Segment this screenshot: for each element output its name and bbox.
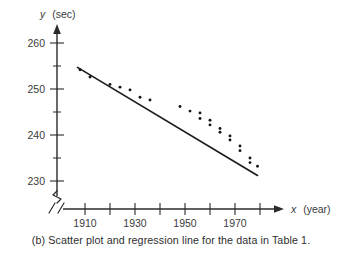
x-axis-break-icon (49, 203, 64, 213)
x-tick-label-1930: 1930 (123, 217, 147, 229)
x-tick-label-1970: 1970 (223, 217, 247, 229)
scatter-point (209, 119, 212, 122)
scatter-point (249, 161, 252, 164)
scatter-point (199, 117, 202, 120)
x-axis-group: 1910 1930 1950 1970 x (year) (49, 203, 331, 229)
scatter-point (129, 88, 132, 91)
y-axis-title: y (sec) (39, 8, 76, 20)
y-tick-label-230: 230 (27, 175, 45, 187)
x-axis-title-variable: x (290, 203, 297, 215)
scatter-point (179, 105, 182, 108)
scatter-point (79, 68, 82, 71)
y-axis-group: 260 250 240 230 y (sec) (27, 8, 75, 203)
scatter-point (219, 127, 222, 130)
scatter-point (239, 149, 242, 152)
scatter-point (229, 139, 232, 142)
scatter-point (239, 145, 242, 148)
y-tick-label-250: 250 (27, 83, 45, 95)
scatter-points-group (79, 68, 259, 167)
scatter-point (189, 110, 192, 113)
scatter-point (249, 157, 252, 160)
regression-line (78, 67, 258, 175)
scatter-point (89, 76, 92, 79)
scatter-point (119, 86, 122, 89)
x-axis-title-unit: (year) (303, 203, 330, 215)
figure-caption: (b) Scatter plot and regression line for… (0, 234, 342, 246)
y-axis-arrowhead (53, 24, 61, 34)
y-tick-label-260: 260 (27, 37, 45, 49)
scatter-point (139, 96, 142, 99)
figure-container: 260 250 240 230 y (sec) (0, 0, 342, 254)
x-tick-label-1950: 1950 (173, 217, 197, 229)
y-axis-title-variable: y (39, 8, 46, 20)
scatter-point (109, 83, 112, 86)
scatter-point (149, 99, 152, 102)
scatter-point (199, 111, 202, 114)
y-axis-title-unit: (sec) (52, 8, 75, 20)
scatter-point (229, 134, 232, 137)
x-axis-title: x (year) (290, 203, 331, 215)
scatter-point (209, 123, 212, 126)
regression-line-group (78, 67, 258, 175)
scatter-point (219, 131, 222, 134)
y-tick-label-240: 240 (27, 129, 45, 141)
scatter-point (256, 165, 259, 168)
scatter-plot: 260 250 240 230 y (sec) (0, 0, 342, 232)
x-tick-label-1910: 1910 (73, 217, 97, 229)
x-axis-arrowhead (274, 205, 284, 213)
